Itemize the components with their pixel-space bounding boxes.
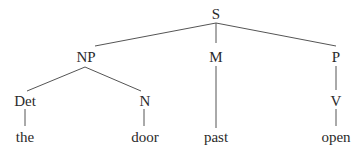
edge-s-p bbox=[216, 23, 336, 46]
edge-np-det bbox=[27, 67, 85, 91]
leaf-open: open bbox=[321, 129, 351, 145]
node-p: P bbox=[332, 49, 340, 65]
node-n: N bbox=[140, 93, 151, 109]
leaf-past: past bbox=[204, 129, 229, 145]
edge-s-np bbox=[95, 23, 216, 46]
node-det: Det bbox=[14, 93, 36, 109]
leaf-door: door bbox=[131, 129, 159, 145]
leaf-the: the bbox=[16, 129, 35, 145]
node-s: S bbox=[212, 6, 220, 22]
node-np: NP bbox=[76, 49, 95, 65]
node-v: V bbox=[331, 93, 342, 109]
tree-edges bbox=[25, 23, 336, 128]
node-m: M bbox=[209, 49, 222, 65]
edge-np-n bbox=[85, 67, 141, 91]
syntax-tree-diagram: S NP M P Det N V the door past open bbox=[0, 0, 364, 153]
